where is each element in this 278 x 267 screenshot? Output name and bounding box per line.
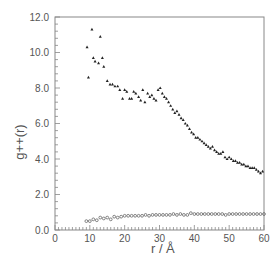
x-tick-label: 60: [258, 233, 270, 244]
data-point-triangle: [223, 156, 226, 159]
data-point-circle: [137, 214, 140, 217]
data-point-circle: [203, 213, 206, 216]
data-point-triangle: [178, 113, 181, 116]
data-point-triangle: [130, 97, 133, 100]
data-point-circle: [88, 220, 91, 223]
data-point-triangle: [171, 108, 174, 111]
data-point-triangle: [99, 35, 102, 38]
data-point-circle: [186, 214, 189, 217]
y-tick-label: 4.0: [35, 154, 49, 165]
data-point-circle: [102, 217, 105, 220]
chart: 0102030405060 0.02.04.06.08.010.012.0 r …: [0, 0, 278, 267]
data-point-circle: [224, 214, 227, 217]
data-point-triangle: [246, 165, 249, 168]
y-tick-label: 0.0: [35, 225, 49, 236]
y-tick-label: 8.0: [35, 83, 49, 94]
data-point-circle: [179, 213, 182, 216]
data-point-circle: [99, 216, 102, 219]
data-point-circle: [106, 216, 109, 219]
data-point-triangle: [228, 156, 231, 159]
data-point-circle: [95, 219, 98, 222]
data-point-circle: [252, 213, 255, 216]
data-point-circle: [214, 213, 217, 216]
data-point-triangle: [167, 101, 170, 104]
y-tick-label: 10.0: [30, 47, 50, 58]
data-point-circle: [256, 213, 259, 216]
x-tick-label: 20: [119, 233, 131, 244]
data-point-triangle: [211, 145, 214, 148]
data-point-triangle: [234, 159, 237, 162]
y-tick-label: 2.0: [35, 189, 49, 200]
data-point-circle: [120, 215, 123, 218]
x-axis-label-unit: Å: [166, 241, 175, 256]
data-point-triangle: [116, 85, 119, 88]
data-point-circle: [231, 213, 234, 216]
data-point-triangle: [118, 88, 121, 91]
data-point-circle: [221, 213, 224, 216]
data-point-triangle: [137, 95, 140, 98]
data-point-circle: [123, 214, 126, 217]
data-point-circle: [238, 213, 241, 216]
data-point-circle: [193, 213, 196, 216]
data-point-triangle: [188, 127, 191, 130]
data-point-circle: [210, 213, 213, 216]
data-point-circle: [109, 218, 112, 221]
data-point-circle: [113, 215, 116, 218]
data-point-circle: [169, 214, 172, 217]
data-point-triangle: [123, 88, 126, 91]
data-point-circle: [182, 214, 185, 217]
data-point-triangle: [163, 95, 166, 98]
data-point-triangle: [87, 76, 90, 79]
data-point-circle: [85, 220, 88, 223]
x-tick-label: 10: [84, 233, 96, 244]
data-point-triangle: [213, 149, 216, 152]
data-point-triangle: [238, 161, 241, 164]
y-tick-label: 12.0: [30, 12, 50, 23]
data-point-circle: [134, 214, 137, 217]
data-point-circle: [200, 213, 203, 216]
data-point-triangle: [111, 83, 114, 86]
data-point-circle: [151, 214, 154, 217]
x-tick-label: 40: [189, 233, 201, 244]
data-point-circle: [259, 213, 262, 216]
data-point-circle: [245, 213, 248, 216]
plot-frame: [55, 17, 264, 230]
data-point-triangle: [221, 150, 224, 153]
data-point-triangle: [101, 56, 104, 59]
data-point-circle: [196, 213, 199, 216]
data-point-triangle: [253, 166, 256, 169]
data-point-triangle: [121, 97, 124, 100]
data-point-circle: [235, 213, 238, 216]
data-point-triangle: [92, 56, 95, 59]
data-point-circle: [176, 214, 179, 217]
x-tick-label: 0: [52, 233, 58, 244]
data-point-triangle: [161, 92, 164, 95]
data-point-triangle: [190, 131, 193, 134]
data-point-circle: [155, 214, 158, 217]
data-point-circle: [158, 214, 161, 217]
data-point-circle: [249, 213, 252, 216]
y-axis-label: g++(r): [12, 124, 27, 159]
data-point-triangle: [109, 83, 112, 86]
data-point-triangle: [90, 28, 93, 31]
data-point-circle: [189, 212, 192, 215]
data-point-circle: [172, 213, 175, 216]
data-point-triangle: [132, 90, 135, 93]
data-point-circle: [242, 213, 245, 216]
data-point-circle: [165, 214, 168, 217]
data-point-circle: [92, 218, 95, 221]
data-point-circle: [130, 214, 133, 217]
data-point-circle: [207, 213, 210, 216]
data-point-triangle: [102, 65, 105, 68]
data-point-triangle: [152, 97, 155, 100]
data-point-triangle: [180, 117, 183, 120]
data-point-circle: [217, 213, 220, 216]
y-axis-ticks: 0.02.04.06.08.010.012.0: [30, 12, 60, 236]
data-point-triangle: [196, 136, 199, 139]
data-point-triangle: [169, 104, 172, 107]
series-upper-triangles: [86, 28, 265, 174]
data-point-triangle: [242, 163, 245, 166]
data-point-triangle: [97, 62, 100, 65]
data-point-triangle: [113, 85, 116, 88]
data-point-circle: [127, 214, 130, 217]
